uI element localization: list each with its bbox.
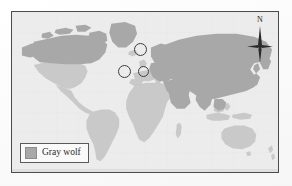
world-map-frame: N Gray wolf	[11, 11, 279, 173]
marker-british-isles	[134, 43, 147, 56]
legend-label-gray-wolf: Gray wolf	[42, 148, 81, 158]
map-legend: Gray wolf	[20, 143, 89, 163]
legend-swatch-gray-wolf	[25, 147, 37, 159]
land-antarctica	[12, 169, 278, 172]
marker-italy	[138, 66, 149, 77]
marker-iberia	[118, 65, 131, 78]
figure-container: N Gray wolf	[0, 0, 292, 186]
compass-rose: N	[247, 16, 273, 64]
compass-rose-icon	[247, 25, 273, 63]
compass-north-label: N	[247, 16, 273, 24]
